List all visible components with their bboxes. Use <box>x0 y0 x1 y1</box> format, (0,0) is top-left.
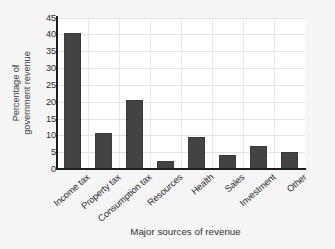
x-axis-category-label: Other <box>285 172 309 194</box>
bar-series <box>57 18 305 170</box>
x-axis-title-text: Major sources of revenue <box>94 226 241 237</box>
y-axis-tick-label: 25 <box>20 80 56 90</box>
y-axis-tick-label: 35 <box>20 46 56 56</box>
y-axis-line <box>56 16 58 170</box>
bar <box>95 133 111 169</box>
x-axis-title: Major sources of revenue <box>0 226 335 237</box>
x-axis-category-label: Consumption tax <box>96 172 153 224</box>
bar <box>219 155 235 169</box>
y-axis-tick-label: 20 <box>20 97 56 107</box>
bar <box>188 137 204 169</box>
bar-chart-figure: Percentage of government revenue 0510152… <box>0 0 335 249</box>
bar <box>250 146 266 169</box>
y-axis-tick-labels: 051015202530354045 <box>20 0 56 185</box>
plot-area <box>57 18 305 170</box>
y-axis-tick-label: 30 <box>20 63 56 73</box>
y-axis-tick-label: 40 <box>20 29 56 39</box>
y-axis-tick-label: 0 <box>20 164 56 174</box>
y-axis-tick-label: 45 <box>20 13 56 23</box>
bar <box>126 100 142 169</box>
y-axis-tick-label: 15 <box>20 114 56 124</box>
x-axis-category-label: Sales <box>223 172 247 194</box>
bar <box>64 33 80 169</box>
x-axis-category-labels: Income taxProperty taxConsumption taxRes… <box>57 170 305 222</box>
x-axis-category-label: Health <box>189 172 215 197</box>
y-axis-tick-label: 10 <box>20 130 56 140</box>
bar <box>281 152 297 169</box>
y-axis-tick-label: 5 <box>20 147 56 157</box>
